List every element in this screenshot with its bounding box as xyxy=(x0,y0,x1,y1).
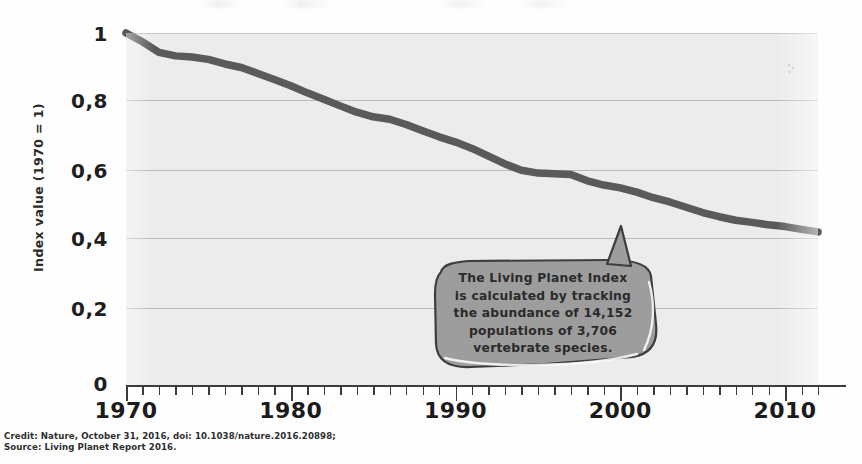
x-tick-1977 xyxy=(241,387,242,395)
living-planet-index-line xyxy=(126,33,818,232)
x-tick-1971 xyxy=(142,387,143,395)
x-tick-1978 xyxy=(258,387,259,395)
callout-line-1: The Living Planet Index xyxy=(439,270,647,288)
y-tick-label-0: 0 xyxy=(0,372,108,396)
x-tick-2011 xyxy=(802,387,803,395)
y-tick-label-0.8: 0,8 xyxy=(0,89,108,113)
x-tick-1973 xyxy=(175,387,176,395)
y-tick-label-0.6: 0,6 xyxy=(0,159,108,183)
x-tick-1993 xyxy=(505,387,506,395)
y-tick-label-0.4: 0,4 xyxy=(0,227,108,251)
callout-line-2: is calculated by tracking xyxy=(439,288,647,306)
x-tick-2001 xyxy=(637,387,638,395)
x-tick-1985 xyxy=(373,387,374,395)
annotation-callout: The Living Planet Index is calculated by… xyxy=(425,258,661,370)
x-tick-2008 xyxy=(752,387,753,395)
x-tick-2003 xyxy=(670,387,671,395)
callout-line-5: vertebrate species. xyxy=(439,340,647,358)
x-tick-1987 xyxy=(406,387,407,395)
x-tick-1974 xyxy=(192,387,193,395)
x-tick-1997 xyxy=(571,387,572,395)
x-tick-1981 xyxy=(307,387,308,395)
x-tick-1989 xyxy=(439,387,440,395)
x-tick-1999 xyxy=(604,387,605,395)
x-tick-1979 xyxy=(274,387,275,395)
callout-text: The Living Planet Index is calculated by… xyxy=(439,270,647,358)
x-tick-2007 xyxy=(736,387,737,395)
x-tick-1992 xyxy=(488,387,489,395)
x-tick-label-2000: 2000 xyxy=(589,398,652,423)
x-tick-1982 xyxy=(324,387,325,395)
x-tick-2009 xyxy=(769,387,770,395)
x-tick-1996 xyxy=(554,387,555,395)
x-tick-1986 xyxy=(390,387,391,395)
x-tick-label-2010: 2010 xyxy=(753,398,816,423)
x-tick-1984 xyxy=(357,387,358,395)
x-tick-2004 xyxy=(686,387,687,395)
x-tick-2006 xyxy=(719,387,720,395)
x-tick-label-1970: 1970 xyxy=(94,398,157,423)
x-tick-label-1990: 1990 xyxy=(424,398,487,423)
y-tick-label-1: 1 xyxy=(0,22,108,46)
y-axis-tick-labels: 1 0,8 0,6 0,4 0,2 0 xyxy=(0,0,108,464)
x-tick-label-1980: 1980 xyxy=(259,398,322,423)
x-axis-line xyxy=(126,385,846,387)
x-tick-1991 xyxy=(472,387,473,395)
x-tick-1972 xyxy=(159,387,160,395)
credit-line-1: Credit: Nature, October 31, 2016, doi: 1… xyxy=(4,431,336,442)
x-tick-1994 xyxy=(521,387,522,395)
x-tick-2002 xyxy=(653,387,654,395)
callout-line-3: the abundance of 14,152 xyxy=(439,305,647,323)
x-tick-1995 xyxy=(538,387,539,395)
living-planet-index-figure: Index value (1970 = 1) 1 0,8 0,6 0,4 0,2… xyxy=(0,0,862,464)
x-tick-1983 xyxy=(340,387,341,395)
cropped-title-remnant xyxy=(200,0,660,8)
x-tick-1988 xyxy=(423,387,424,395)
x-tick-2005 xyxy=(703,387,704,395)
credit-block: Credit: Nature, October 31, 2016, doi: 1… xyxy=(4,431,336,453)
y-tick-label-0.2: 0,2 xyxy=(0,297,108,321)
x-tick-1975 xyxy=(208,387,209,395)
credit-line-2: Source: Living Planet Report 2016. xyxy=(4,442,336,453)
callout-line-4: populations of 3,706 xyxy=(439,323,647,341)
x-tick-1976 xyxy=(225,387,226,395)
x-tick-1998 xyxy=(587,387,588,395)
x-tick-2012 xyxy=(818,387,819,395)
